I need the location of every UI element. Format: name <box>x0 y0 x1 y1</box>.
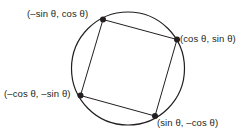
point-label-bottom-left: (–cos θ, –sin θ) <box>4 88 71 99</box>
vertex-dot-top-left <box>100 17 106 23</box>
inscribed-square <box>81 20 178 117</box>
point-label-top-left: (–sin θ, cos θ) <box>27 8 88 19</box>
point-label-right: (cos θ, sin θ) <box>180 33 236 44</box>
figure-canvas <box>0 0 247 136</box>
unit-circle-inscribed-square-figure: (–sin θ, cos θ) (cos θ, sin θ) (–cos θ, … <box>0 0 247 136</box>
vertex-dot-bottom-left <box>78 93 84 99</box>
point-label-bottom-right: (sin θ, –cos θ) <box>157 117 218 128</box>
